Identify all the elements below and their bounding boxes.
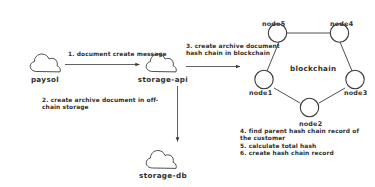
cloud-label-paysol: paysol: [22, 75, 68, 84]
node-label-node4: node4: [330, 20, 353, 28]
node-circle-node1[interactable]: [255, 70, 273, 88]
node-label-node2: node2: [299, 120, 322, 128]
flow-label-document-create-message: 1. document create message: [68, 51, 167, 58]
flow-label-create-hash-chain: 3. create archive document hash chain in…: [186, 43, 280, 58]
architecture-diagram: paysol storage-api storage-db 1. documen…: [0, 0, 375, 187]
cloud-icon-storage-db: [146, 151, 176, 169]
node-circle-node3[interactable]: [346, 70, 364, 88]
node-circle-node2[interactable]: [300, 98, 318, 116]
edge-node3-node2: [319, 88, 345, 103]
flow-label-create-archive-offchain: 2. create archive document in off- chain…: [42, 97, 158, 112]
blockchain-center-label: blockchain: [290, 64, 336, 73]
cloud-label-storage-api: storage-api: [135, 75, 191, 84]
node-label-node1: node1: [249, 89, 272, 97]
blockchain-steps-list: 4. find parent hash chain record of the …: [240, 128, 372, 158]
cloud-icon-paysol: [30, 54, 60, 72]
cloud-label-storage-db: storage-db: [135, 171, 191, 180]
node-label-node3: node3: [344, 89, 367, 97]
edge-node2-node1: [274, 88, 300, 103]
edge-node4-node3: [340, 42, 352, 71]
node-label-node5: node5: [262, 20, 285, 28]
diagram-graphics: [0, 0, 375, 187]
